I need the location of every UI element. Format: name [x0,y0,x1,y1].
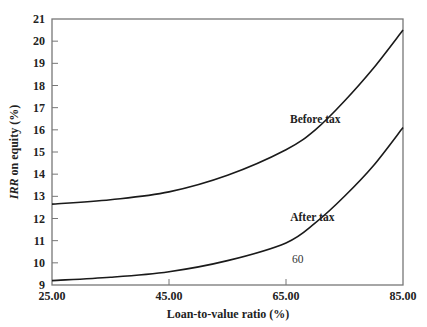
series-lines [52,30,403,281]
x-tick-label: 65.00 [273,289,300,303]
y-tick-label: 12 [33,212,45,226]
annotation-label: 60 [292,253,304,265]
plot-frame [52,19,403,285]
curve-labels: Before taxAfter tax60 [290,113,341,265]
y-tick-label: 20 [33,34,45,48]
y-axis-title-rest: on equity (%) [7,105,21,179]
x-axis: 25.0045.0065.0085.00 [39,279,417,303]
x-tick-label: 45.00 [156,289,183,303]
y-axis: 9101112131415161718192021 [33,12,58,292]
y-tick-label: 10 [33,256,45,270]
y-tick-label: 13 [33,189,45,203]
curve-label-before-tax: Before tax [290,113,341,125]
y-tick-label: 14 [33,167,45,181]
series-line-after-tax [52,128,403,281]
y-tick-label: 21 [33,12,45,26]
plot-border [52,19,403,285]
x-tick-label: 25.00 [39,289,66,303]
x-tick-label: 85.00 [390,289,417,303]
series-line-before-tax [52,30,403,204]
y-tick-label: 17 [33,101,45,115]
x-axis-title: Loan-to-value ratio (%) [167,307,290,321]
y-tick-label: 15 [33,145,45,159]
y-tick-label: 16 [33,123,45,137]
y-tick-label: 18 [33,79,45,93]
y-axis-title-italic: IRR [7,178,21,200]
y-tick-label: 11 [34,234,45,248]
y-tick-label: 19 [33,56,45,70]
curve-label-after-tax: After tax [290,211,334,223]
irr-vs-ltv-chart: 9101112131415161718192021 25.0045.0065.0… [0,0,427,327]
y-axis-title: IRR on equity (%) [7,105,21,200]
